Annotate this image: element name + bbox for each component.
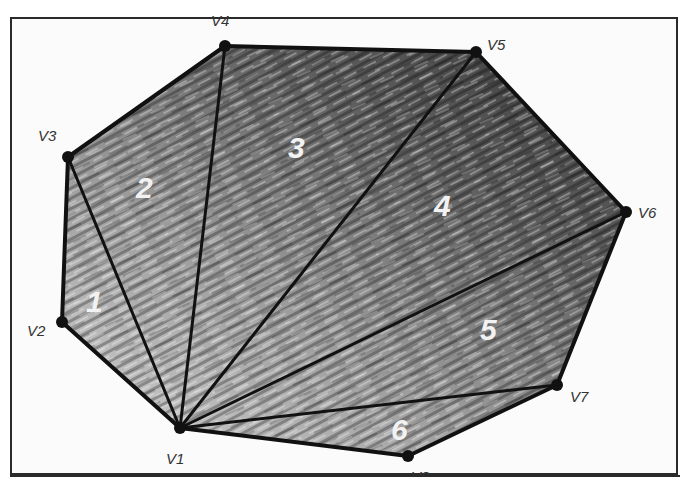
vertex-label-v7: V7 <box>570 388 589 405</box>
vertex-label-v2: V2 <box>27 322 46 339</box>
region-label-1: 1 <box>86 285 103 318</box>
vertex-dot-v4 <box>219 40 231 52</box>
vertex-dot-v5 <box>470 46 482 58</box>
polygon-triangulation-diagram: V1 V2 V3 V4 V5 V6 V7 V8 1 2 3 4 5 6 <box>0 0 690 487</box>
vertex-label-v6: V6 <box>638 204 657 221</box>
region-label-4: 4 <box>433 189 451 222</box>
vertex-label-v3: V3 <box>38 127 57 144</box>
vertex-dot-v8 <box>402 450 414 462</box>
region-label-6: 6 <box>391 413 408 446</box>
vertex-label-v1: V1 <box>166 450 184 467</box>
region-label-3: 3 <box>288 131 305 164</box>
vertex-dot-v2 <box>56 316 68 328</box>
vertex-dot-v6 <box>620 206 632 218</box>
vertex-label-v5: V5 <box>487 36 506 53</box>
region-label-2: 2 <box>135 171 153 204</box>
region-label-5: 5 <box>480 313 498 346</box>
vertex-dot-v1 <box>174 422 186 434</box>
vertex-dot-v7 <box>551 379 563 391</box>
vertex-dot-v3 <box>62 151 74 163</box>
vertex-label-v4: V4 <box>211 12 229 29</box>
